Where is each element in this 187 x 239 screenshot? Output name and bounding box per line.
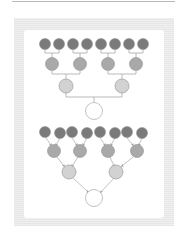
leaf-nodes (40, 127, 148, 139)
tree-diagrams (0, 0, 187, 239)
leaf-nodes (40, 39, 149, 50)
tree-top (45, 50, 143, 102)
level3-nodes (59, 79, 129, 93)
root-node (86, 190, 103, 207)
level2-nodes (46, 58, 143, 71)
level2-nodes (48, 145, 144, 158)
tree-bottom-nodes (40, 127, 148, 207)
level3-nodes (62, 165, 123, 179)
tree-top-nodes (40, 39, 149, 120)
tree-bottom (46, 138, 142, 192)
root-node (86, 103, 103, 120)
